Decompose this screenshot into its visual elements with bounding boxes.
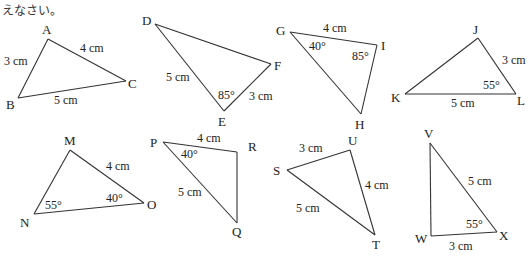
vertex-k: K (391, 90, 401, 105)
triangle-pqr: P Q R 4 cm 5 cm 40° (150, 131, 257, 239)
vertex-b: B (6, 97, 15, 112)
vertex-e: E (218, 114, 226, 129)
label-vx: 5 cm (468, 174, 492, 188)
vertex-a: A (42, 22, 52, 37)
label-st: 5 cm (296, 201, 320, 215)
label-jl: 3 cm (502, 53, 526, 67)
vertex-p: P (150, 135, 157, 150)
vertex-u: U (348, 133, 358, 148)
label-bc: 5 cm (54, 93, 78, 107)
vertex-h: H (355, 117, 364, 132)
triangles-figure: A B C 3 cm 4 cm 5 cm D E F 5 cm 3 cm 85°… (0, 0, 530, 258)
label-gi: 4 cm (323, 21, 347, 35)
label-angle-g: 40° (309, 39, 326, 53)
label-angle-l: 55° (483, 78, 500, 92)
label-de: 5 cm (166, 70, 190, 84)
label-angle-i: 85° (352, 49, 369, 63)
label-ef: 3 cm (249, 89, 273, 103)
vertex-f: F (274, 58, 281, 73)
vertex-x: X (499, 228, 509, 243)
label-kl: 5 cm (451, 96, 475, 110)
vertex-s: S (273, 163, 280, 178)
label-angle-e: 85° (218, 88, 235, 102)
vertex-q: Q (232, 224, 242, 239)
vertex-i: I (381, 38, 385, 53)
vertex-m: M (64, 133, 76, 148)
label-ut: 4 cm (365, 178, 389, 192)
triangle-vwx: V W X 5 cm 3 cm 55° (415, 126, 509, 253)
triangle-ghi: G H I 4 cm 40° 85° (276, 21, 385, 132)
triangle-jkl: J K L 3 cm 5 cm 55° (391, 22, 526, 110)
triangle-abc: A B C 3 cm 4 cm 5 cm (4, 22, 137, 112)
triangle-def: D E F 5 cm 3 cm 85° (142, 13, 281, 129)
vertex-g: G (276, 23, 285, 38)
label-wx: 3 cm (449, 239, 473, 253)
label-mo: 4 cm (106, 159, 130, 173)
vertex-n: N (20, 215, 30, 230)
label-ab: 3 cm (4, 54, 28, 68)
label-pq: 5 cm (178, 185, 202, 199)
label-angle-n: 55° (45, 198, 62, 212)
vertex-d: D (142, 13, 151, 28)
label-angle-o: 40° (106, 191, 123, 205)
vertex-w: W (415, 231, 428, 246)
label-angle-x: 55° (466, 217, 483, 231)
vertex-v: V (424, 126, 434, 141)
triangle-mno: M N O 4 cm 55° 40° (20, 133, 156, 230)
vertex-l: L (517, 93, 525, 108)
label-su: 3 cm (299, 141, 323, 155)
vertex-c: C (128, 76, 137, 91)
vertex-j: J (473, 22, 478, 37)
label-angle-p: 40° (181, 147, 198, 161)
label-ac: 4 cm (80, 41, 104, 55)
vertex-r: R (248, 139, 257, 154)
label-pr: 4 cm (197, 131, 221, 145)
vertex-o: O (147, 197, 156, 212)
triangle-stu: S T U 3 cm 4 cm 5 cm (273, 133, 389, 252)
vertex-t: T (372, 237, 380, 252)
